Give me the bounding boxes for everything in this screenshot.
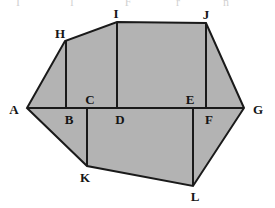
vertex-label-G: G — [253, 103, 263, 116]
vertex-label-F: F — [205, 113, 213, 126]
vertex-label-J: J — [203, 8, 210, 21]
vertex-label-E: E — [186, 93, 195, 106]
vertex-label-H: H — [55, 27, 65, 40]
vertex-label-A: A — [9, 103, 18, 116]
vertex-label-L: L — [191, 190, 200, 203]
figure-canvas — [0, 0, 275, 208]
vertex-label-I: I — [113, 7, 118, 20]
outer-polygon — [27, 22, 244, 186]
vertex-label-C: C — [85, 93, 94, 106]
vertex-label-K: K — [80, 171, 90, 184]
vertex-label-D: D — [115, 113, 124, 126]
geometry-figure: IlFrn ABCDEFGHIJKL — [0, 0, 275, 208]
vertex-label-B: B — [65, 113, 74, 126]
